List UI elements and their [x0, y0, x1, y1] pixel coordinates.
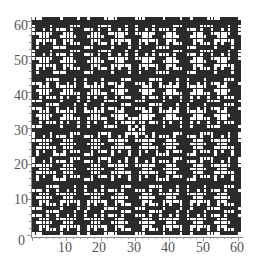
- x-tick-30: 30: [119, 241, 149, 255]
- x-axis: [31, 237, 243, 238]
- cell-grid: [32, 17, 241, 235]
- x-tick-10: 10: [50, 241, 80, 255]
- x-tick-40: 40: [153, 241, 183, 255]
- y-tick-50: 50: [2, 54, 28, 68]
- origin-label: 0: [18, 234, 25, 248]
- y-tick-60: 60: [2, 19, 28, 33]
- matrix-plot: [32, 17, 241, 235]
- y-axis: [31, 17, 32, 238]
- y-tick-10: 10: [2, 193, 28, 207]
- x-tick-50: 50: [188, 241, 218, 255]
- y-tick-30: 30: [2, 124, 28, 138]
- y-tick-20: 20: [2, 158, 28, 172]
- x-tick-60: 60: [222, 241, 252, 255]
- y-tick-40: 40: [2, 89, 28, 103]
- x-tick-20: 20: [84, 241, 114, 255]
